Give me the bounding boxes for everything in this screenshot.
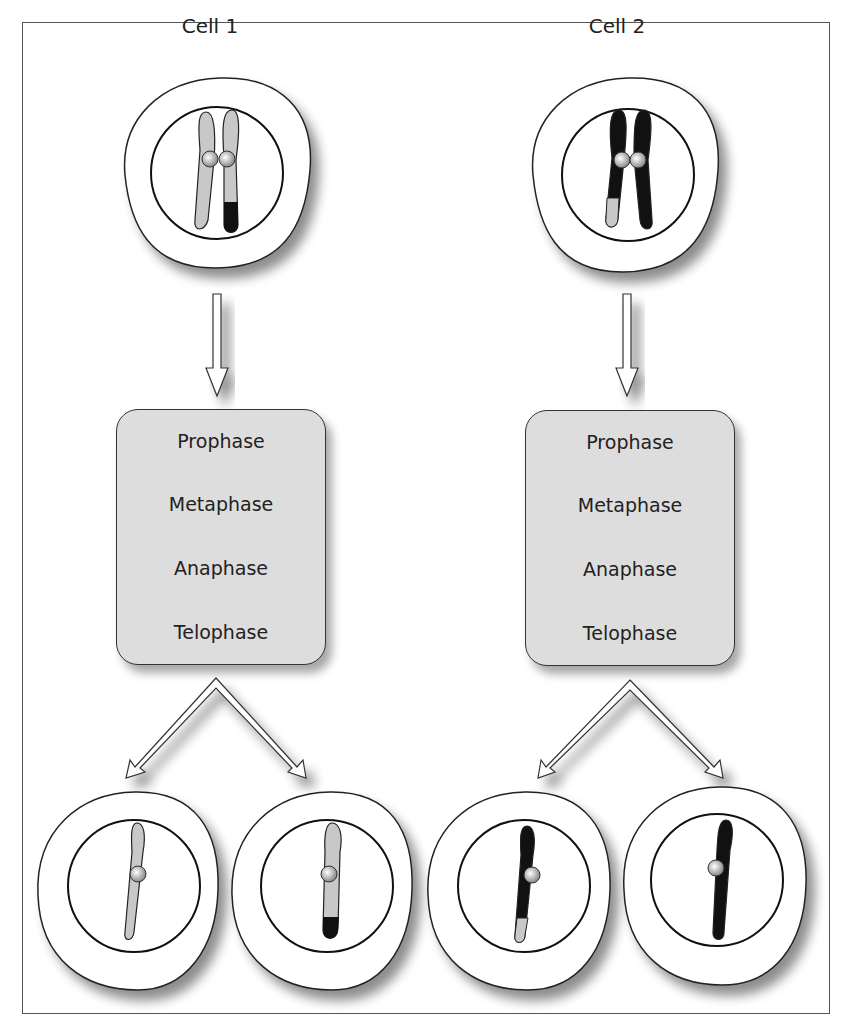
phase-telophase: Telophase — [526, 622, 734, 644]
phase-anaphase: Anaphase — [117, 557, 325, 579]
phase-metaphase: Metaphase — [117, 493, 325, 515]
down-arrow-icon — [206, 294, 228, 396]
chromatid-light-segment-icon — [606, 198, 619, 227]
phase-telophase: Telophase — [117, 621, 325, 643]
phase-prophase: Prophase — [117, 430, 325, 452]
phase-box-cell-1: Prophase Metaphase Anaphase Telophase — [116, 409, 326, 665]
down-arrow-icon — [616, 294, 638, 396]
split-arrow-icon — [538, 680, 723, 778]
centromere-icon — [202, 151, 218, 167]
centromere-icon — [130, 866, 146, 882]
phase-anaphase: Anaphase — [526, 558, 734, 580]
centromere-icon — [630, 152, 646, 168]
centromere-icon — [219, 151, 235, 167]
phase-metaphase: Metaphase — [526, 494, 734, 516]
nucleus-icon — [562, 109, 694, 241]
centromere-icon — [524, 867, 540, 883]
nucleus-icon — [151, 107, 283, 239]
phase-box-cell-2: Prophase Metaphase Anaphase Telophase — [525, 410, 735, 666]
centromere-icon — [708, 860, 724, 876]
chromatid-dark-segment-icon — [224, 202, 238, 233]
phase-prophase: Prophase — [526, 431, 734, 453]
split-arrow-icon — [126, 678, 306, 778]
centromere-icon — [321, 866, 337, 882]
centromere-icon — [614, 152, 630, 168]
